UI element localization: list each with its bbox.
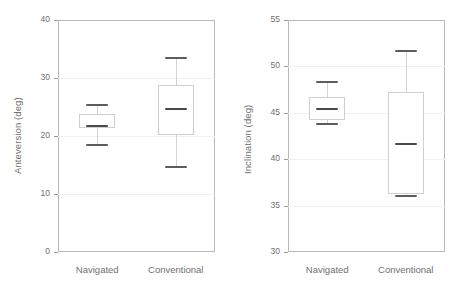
y-axis-tick <box>284 159 288 160</box>
whisker-cap-upper <box>86 104 108 106</box>
boxplot-figure: 0 10 20 30 40 Anteversion (deg) Navigate… <box>0 0 459 295</box>
whisker-line <box>97 105 98 114</box>
whisker-cap-lower <box>395 195 417 197</box>
gridline <box>288 66 445 67</box>
whisker-cap-upper <box>165 57 187 59</box>
gridline <box>58 78 215 79</box>
y-axis-tick-label: 35 <box>248 201 280 210</box>
y-axis-tick <box>54 194 58 195</box>
median-line <box>165 108 187 110</box>
y-axis-tick-label: 0 <box>18 247 50 256</box>
whisker-line <box>327 82 328 97</box>
y-axis-tick-label: 10 <box>18 189 50 198</box>
y-axis-tick-label: 30 <box>18 73 50 82</box>
median-line <box>86 125 108 127</box>
y-axis-tick-label: 40 <box>18 15 50 24</box>
whisker-cap-lower <box>316 123 338 125</box>
y-axis-tick <box>284 252 288 253</box>
y-axis-tick <box>284 20 288 21</box>
panel-inclination: 30 35 40 45 50 55 Inclination (deg) Navi… <box>230 0 459 295</box>
whisker-cap-lower <box>165 166 187 168</box>
y-axis-tick <box>54 252 58 253</box>
box <box>158 85 194 135</box>
gridline <box>288 206 445 207</box>
whisker-line <box>176 58 177 85</box>
y-axis-tick <box>54 78 58 79</box>
panel-anteversion: 0 10 20 30 40 Anteversion (deg) Navigate… <box>0 0 229 295</box>
gridline <box>58 194 215 195</box>
y-axis-tick <box>284 206 288 207</box>
x-axis-label-conventional: Conventional <box>356 264 456 275</box>
y-axis-tick <box>284 66 288 67</box>
y-axis-tick <box>54 136 58 137</box>
y-axis-tick-label: 55 <box>248 15 280 24</box>
whisker-cap-upper <box>395 50 417 52</box>
y-axis-tick-label: 50 <box>248 61 280 70</box>
y-axis-title-anteversion: Anteversion (deg) <box>12 97 23 174</box>
whisker-line <box>97 128 98 145</box>
whisker-line <box>406 51 407 93</box>
whisker-line <box>176 135 177 167</box>
x-axis-label-conventional: Conventional <box>126 264 226 275</box>
whisker-cap-lower <box>86 144 108 146</box>
gridline <box>58 136 215 137</box>
whisker-cap-upper <box>316 81 338 83</box>
y-axis-tick <box>54 20 58 21</box>
median-line <box>316 108 338 110</box>
y-axis-tick <box>284 113 288 114</box>
y-axis-tick-label: 30 <box>248 247 280 256</box>
y-axis-title-inclination: Inclination (deg) <box>242 105 253 174</box>
